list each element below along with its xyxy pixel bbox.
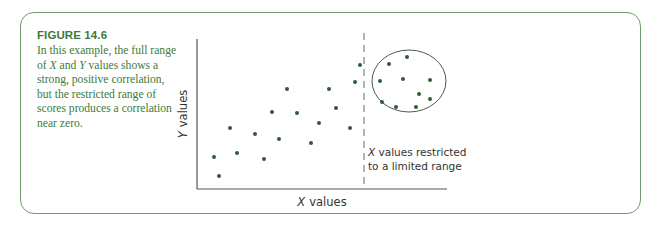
data-point	[405, 55, 409, 59]
data-point	[228, 126, 232, 130]
data-point	[353, 80, 357, 84]
data-point	[348, 126, 352, 130]
data-point	[317, 121, 321, 125]
data-point	[235, 151, 239, 155]
x-axis-label: Xvalues	[296, 195, 346, 209]
data-point	[387, 62, 391, 66]
data-point	[295, 111, 299, 115]
data-point	[394, 105, 398, 109]
data-point	[212, 155, 216, 159]
data-point	[417, 92, 421, 96]
data-point	[358, 63, 362, 67]
data-point	[428, 78, 432, 82]
restriction-annotation-line2: to a limited range	[368, 160, 462, 172]
full-range-points	[212, 63, 362, 178]
data-point	[309, 141, 313, 145]
data-point	[414, 105, 418, 109]
restricted-range-points	[378, 55, 432, 109]
y-axis-label: Yvalues	[176, 90, 190, 138]
data-point	[262, 157, 266, 161]
data-point	[253, 132, 257, 136]
data-point	[270, 110, 274, 114]
data-point	[380, 100, 384, 104]
data-point	[334, 106, 338, 110]
data-point	[378, 79, 382, 83]
data-point	[428, 97, 432, 101]
data-point	[217, 174, 221, 178]
data-point	[285, 87, 289, 91]
data-point	[277, 137, 281, 141]
data-point	[401, 77, 405, 81]
data-point	[327, 87, 331, 91]
restriction-annotation: X values restricted	[367, 146, 466, 158]
scatter-plot: Yvalues Xvalues X values restricted to a…	[0, 0, 663, 232]
